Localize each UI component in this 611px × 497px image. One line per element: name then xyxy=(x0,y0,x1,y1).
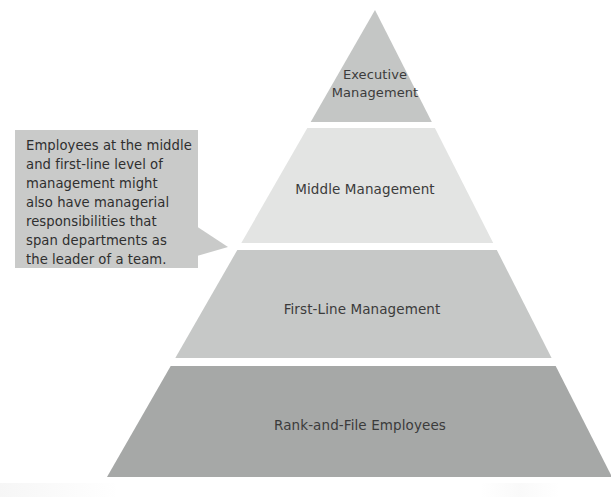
callout-line-6: span departments as xyxy=(26,233,167,248)
pyramid-label-middle: Middle Management xyxy=(295,181,435,197)
pyramid-level-first-line[interactable]: First-Line Management xyxy=(175,250,551,358)
callout-line-7: the leader of a team. xyxy=(26,252,166,267)
pyramid-level-rank-and-file[interactable]: Rank-and-File Employees xyxy=(107,366,611,477)
callout-line-3: management might xyxy=(26,176,158,191)
callout-line-1: Employees at the middle xyxy=(26,138,192,153)
callout-line-5: responsibilities that xyxy=(26,214,157,229)
callout-note[interactable]: Employees at the middle and first-line l… xyxy=(15,130,228,268)
pyramid-label-first-line: First-Line Management xyxy=(284,301,441,317)
pyramid-label-rank-and-file: Rank-and-File Employees xyxy=(274,417,446,433)
callout-line-2: and first-line level of xyxy=(26,157,163,172)
diagram-canvas: Executive Management Middle Management F… xyxy=(0,0,611,497)
pyramid-label-executive-line1: Executive xyxy=(343,67,407,82)
pyramid-label-executive-line2: Management xyxy=(332,85,419,100)
callout-line-4: also have managerial xyxy=(26,195,169,210)
pyramid-diagram: Executive Management Middle Management F… xyxy=(0,0,611,497)
